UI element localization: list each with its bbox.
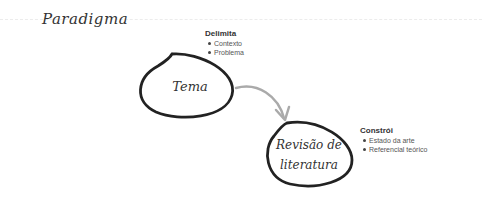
node-tema: Tema [160, 77, 220, 97]
note-item: Contexto [214, 39, 244, 48]
node-revisao-line2: literatura [266, 155, 352, 175]
node-tema-label: Tema [172, 79, 207, 94]
note-delimita: Delimita Contexto Problema [205, 29, 244, 57]
arrow-tema-to-revisao [236, 87, 284, 118]
note-item: Problema [214, 48, 244, 57]
note-delimita-heading: Delimita [205, 29, 244, 38]
note-item: Estado da arte [369, 136, 427, 145]
note-constroi-heading: Constrói [360, 126, 427, 135]
note-constroi: Constrói Estado da arte Referencial teór… [360, 126, 427, 154]
note-item: Referencial teórico [369, 145, 427, 154]
node-revisao-line1: Revisão de [266, 135, 352, 155]
node-revisao: Revisão de literatura [266, 135, 352, 175]
